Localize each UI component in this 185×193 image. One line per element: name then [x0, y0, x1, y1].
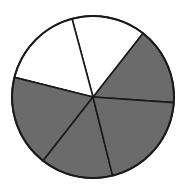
pie-chart-figure: [0, 0, 185, 193]
pie-chart-svg: [0, 0, 185, 193]
